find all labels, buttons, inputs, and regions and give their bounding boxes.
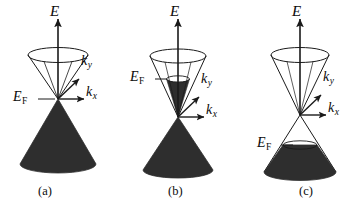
panel-a-kx-base: k [86, 84, 92, 99]
panel-a-upper-cone-inner-left [44, 62, 58, 100]
panel-c-upper-cone-right-side [300, 55, 329, 115]
panel-c-upper-cone-inner-right [300, 62, 313, 116]
panel-b-ky-axis-label: ky [201, 72, 211, 86]
panel-a-kx-subscript: x [93, 91, 97, 101]
panel-c-caption: (c) [299, 185, 313, 198]
panel-c-ky-axis [300, 95, 321, 115]
panel-a-upper-cone-inner-right [58, 62, 72, 100]
panel-a-ky-subscript: y [88, 60, 92, 70]
panel-c-upper-cone-left-side [271, 55, 300, 115]
panel-c-fermi-surface-ellipse-back [283, 141, 317, 145]
panel-b-fermi-label: EF [130, 70, 144, 84]
panel-b-kx-base: k [206, 102, 212, 117]
panel-c-upper-cone-inner-left [287, 62, 300, 116]
figure-root: E ky kx EF (a) E ky kx EF (b) E ky kx EF… [0, 0, 357, 211]
panel-b-ky-subscript: y [208, 78, 212, 88]
panel-c-kx-base: k [328, 100, 334, 115]
panel-a-lower-cone-fill [20, 99, 96, 173]
panel-b-energy-axis-label: E [170, 4, 179, 19]
panel-a-ky-axis-label: ky [81, 54, 91, 68]
panel-c-fermi-label: EF [257, 136, 271, 150]
panel-a-graphics [20, 19, 96, 173]
panel-c-ky-base: k [323, 69, 329, 84]
panel-b-fermi-base: E [130, 69, 139, 84]
panel-a-fermi-base: E [13, 89, 22, 104]
panel-a-ky-base: k [81, 53, 87, 68]
panel-b-ky-base: k [201, 71, 207, 86]
panel-b-caption: (b) [168, 185, 183, 198]
panel-c-kx-subscript: x [335, 107, 339, 117]
panel-a-fermi-label: EF [13, 90, 27, 104]
panel-c-ky-axis-label: ky [323, 70, 333, 84]
panel-b-graphics [143, 19, 213, 178]
panel-a-fermi-subscript: F [22, 96, 27, 106]
panel-c-energy-axis-label: E [292, 4, 301, 19]
panel-c-lower-cone-fill [264, 145, 336, 180]
panel-c-kx-axis-label: kx [328, 101, 338, 115]
panel-a-ky-axis [58, 79, 79, 99]
panel-b-kx-axis-label: kx [206, 103, 216, 117]
panel-a-energy-axis-label: E [50, 4, 59, 19]
panel-c-fermi-subscript: F [266, 142, 271, 152]
panel-c-graphics [264, 19, 336, 180]
panel-b-lower-cone-fill [143, 117, 213, 178]
panel-c-ky-subscript: y [330, 76, 334, 86]
panel-b-kx-subscript: x [213, 109, 217, 119]
panel-c-fermi-base: E [257, 135, 266, 150]
dirac-cone-figure-svg [0, 0, 357, 211]
panel-a-kx-axis-label: kx [86, 85, 96, 99]
panel-a-caption: (a) [38, 185, 52, 198]
panel-b-fermi-subscript: F [139, 76, 144, 86]
